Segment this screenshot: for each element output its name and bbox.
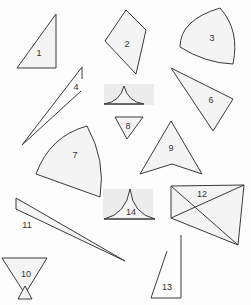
shape-2: 2 <box>105 10 146 74</box>
shape-13: 13 <box>151 235 181 298</box>
shape-14: 14 <box>103 189 155 219</box>
shape-9: 9 <box>140 121 202 174</box>
shape-6: 6 <box>171 68 233 131</box>
shape-8: 8 <box>115 117 143 139</box>
shape-12: 12 <box>171 185 244 245</box>
shape-10: 10 <box>2 258 47 299</box>
shape-6-label: 6 <box>208 95 213 105</box>
shape-2-label: 2 <box>124 39 129 49</box>
shape-7: 7 <box>36 126 101 197</box>
shape-11-label: 11 <box>22 220 31 230</box>
shape-10-label: 10 <box>21 269 31 279</box>
shape-12-label: 12 <box>197 189 207 199</box>
figure-canvas: 1 2 3 4 6 7 8 9 11 <box>0 0 251 305</box>
shape-13-label: 13 <box>162 282 172 292</box>
shape-7-label: 7 <box>72 150 77 160</box>
shape-1-label: 1 <box>36 48 41 58</box>
shape-3-label: 3 <box>209 33 214 43</box>
shape-5 <box>104 84 154 105</box>
shapes-diagram: 1 2 3 4 6 7 8 9 11 <box>0 0 251 305</box>
shape-8-label: 8 <box>125 121 130 131</box>
shape-14-label: 14 <box>126 207 136 217</box>
shape-4-label: 4 <box>73 82 78 92</box>
shape-1: 1 <box>17 14 56 68</box>
shape-9-label: 9 <box>168 143 173 153</box>
shape-3: 3 <box>180 8 235 64</box>
